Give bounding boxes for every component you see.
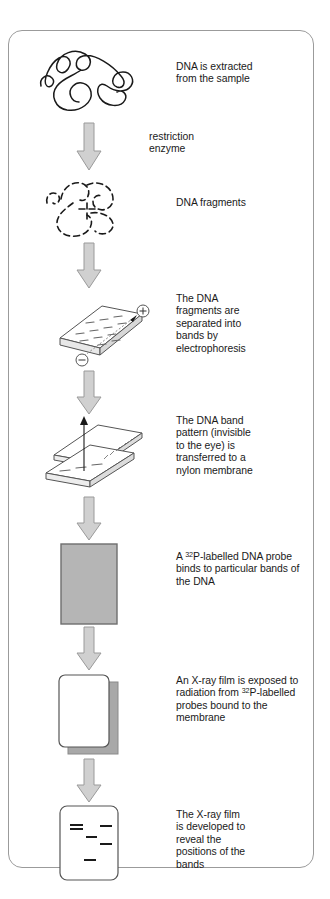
caption-dna-fragments: DNA fragments bbox=[176, 197, 306, 209]
nylon-membrane-icon bbox=[9, 539, 169, 629]
stage-dna-extraction: DNA is extracted from the sample bbox=[9, 39, 315, 121]
arrow-to-electrophoresis bbox=[9, 243, 169, 291]
caption-probe-binding: A 32P-labelled DNA probe binds to partic… bbox=[176, 551, 306, 588]
fragmented-dna-strand-icon bbox=[9, 171, 169, 243]
figure-frame: DNA is extracted from the sample restric… bbox=[8, 30, 314, 868]
tangled-dna-strand-icon bbox=[9, 39, 169, 121]
arrow-label-restriction-enzyme: restriction enzyme bbox=[149, 131, 289, 156]
caption-electrophoresis: The DNA fragments are separated into ban… bbox=[176, 293, 306, 355]
arrow-to-transfer bbox=[9, 371, 169, 417]
arrow-restriction-enzyme bbox=[9, 123, 169, 173]
stage-electrophoresis: The DNA fragments are separated into ban… bbox=[9, 287, 315, 373]
caption-xray-exposure-text: An X-ray film is exposed to radiation fr… bbox=[176, 675, 306, 725]
arrow-to-xray bbox=[9, 627, 169, 673]
caption-film-developed: The X-ray film is developed to reveal th… bbox=[176, 809, 306, 871]
caption-probe-binding-text: A 32P-labelled DNA probe binds to partic… bbox=[176, 551, 306, 588]
caption-dna-extraction: DNA is extracted from the sample bbox=[176, 61, 306, 86]
gel-to-membrane-transfer-icon bbox=[9, 413, 169, 499]
arrow-to-probe bbox=[9, 497, 169, 543]
developed-film-bands-icon bbox=[9, 801, 169, 885]
caption-xray-exposure: An X-ray film is exposed to radiation fr… bbox=[176, 675, 306, 725]
electrophoresis-gel-icon bbox=[9, 287, 169, 373]
stage-film-developed: The X-ray film is developed to reveal th… bbox=[9, 801, 315, 885]
xray-film-icon bbox=[9, 669, 169, 761]
stage-dna-fragments: DNA fragments bbox=[9, 171, 315, 243]
stage-membrane-transfer: The DNA band pattern (invisible to the e… bbox=[9, 413, 315, 499]
arrow-to-develop bbox=[9, 759, 169, 805]
caption-membrane-transfer: The DNA band pattern (invisible to the e… bbox=[176, 415, 306, 477]
stage-probe-binding: A 32P-labelled DNA probe binds to partic… bbox=[9, 539, 315, 629]
stage-xray-exposure: An X-ray film is exposed to radiation fr… bbox=[9, 669, 315, 761]
